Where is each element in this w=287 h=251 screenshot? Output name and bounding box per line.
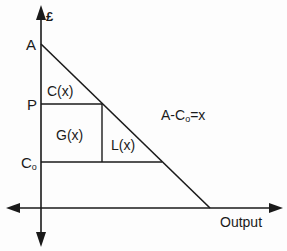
diagram-canvas: £ A P Co C(x) G(x) L(x) A-Co=x Output bbox=[0, 0, 287, 251]
c0-subscript: o bbox=[32, 162, 37, 172]
y-axis-arrow-up-icon bbox=[36, 5, 46, 20]
point-p-label: P bbox=[27, 97, 37, 112]
y-axis-label: £ bbox=[46, 10, 53, 23]
x-axis-label: Output bbox=[220, 215, 262, 229]
x-axis-arrow-right-icon bbox=[269, 203, 283, 213]
annotation-suffix: =x bbox=[190, 107, 205, 123]
point-c0-label: Co bbox=[21, 155, 37, 172]
region-consumer-label: C(x) bbox=[47, 84, 73, 98]
point-a-label: A bbox=[26, 37, 36, 52]
y-axis-arrow-down-icon bbox=[36, 232, 46, 247]
annotation-prefix: A-C bbox=[161, 107, 185, 123]
demand-line bbox=[41, 44, 210, 208]
c0-base: C bbox=[21, 154, 32, 171]
annotation-label: A-Co=x bbox=[161, 108, 205, 124]
region-gain-label: G(x) bbox=[56, 128, 83, 142]
region-loss-label: L(x) bbox=[111, 138, 135, 152]
x-axis-arrow-left-icon bbox=[6, 203, 20, 213]
